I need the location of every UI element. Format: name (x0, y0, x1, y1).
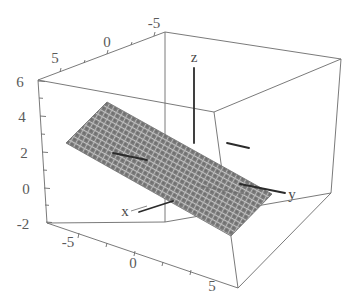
z-tick-label-4: 4 (18, 109, 26, 125)
top-tick-label-5: 5 (51, 50, 59, 66)
axis-label-z: z (191, 49, 198, 65)
box-edge-left-vertical (38, 80, 47, 223)
y-axis-line-upper (227, 143, 249, 148)
axis-label-y: y (288, 186, 296, 202)
z-tick-2 (42, 152, 48, 153)
bottom-tick-label-0: 0 (129, 255, 137, 271)
plot-canvas: 6 4 2 0 -2 5 0 -5 -5 0 5 z x y (0, 0, 352, 306)
top-tick-label-neg5: -5 (148, 15, 161, 31)
bottom-tick-label-5: 5 (208, 278, 216, 294)
top-tick-label-0: 0 (103, 34, 111, 50)
bottom-tick-5 (190, 270, 191, 275)
surface-polygon (66, 102, 272, 236)
bottom-tick-label-neg5: -5 (62, 234, 75, 250)
z-tick-0 (44, 188, 50, 189)
z-tick-label-neg2: -2 (17, 216, 30, 232)
box-edge-top-front-left (38, 80, 214, 112)
z-tick-4 (40, 116, 46, 117)
z-tick-6 (38, 81, 45, 82)
z-tick-neg2 (46, 222, 52, 223)
z-axis-ticks (38, 81, 52, 223)
z-tick-label-2: 2 (20, 145, 28, 161)
box-edge-top-front-right (214, 59, 341, 112)
z-tick-label-0: 0 (22, 181, 30, 197)
surface-plane (66, 102, 272, 236)
box-edge-right-vertical (331, 59, 341, 193)
3d-surface-plot: 6 4 2 0 -2 5 0 -5 -5 0 5 z x y (0, 0, 352, 306)
z-tick-label-6: 6 (16, 74, 24, 90)
box-edge-bottom-back-left (47, 222, 165, 223)
axis-label-x: x (121, 203, 129, 219)
